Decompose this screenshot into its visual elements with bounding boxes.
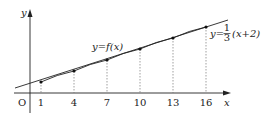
point-13 xyxy=(171,36,174,39)
tick-label-16: 16 xyxy=(200,97,213,108)
tick-label-4: 4 xyxy=(71,97,77,108)
line-label-suffix: (x+2) xyxy=(232,28,260,39)
point-16 xyxy=(204,25,207,28)
point-7 xyxy=(105,58,108,61)
x-axis-arrow-icon xyxy=(223,91,231,96)
tick-label-7: 7 xyxy=(104,97,110,108)
curve-label: y=f(x) xyxy=(91,41,123,52)
line-label: y= 1 3 (x+2) xyxy=(209,22,260,43)
line-label-denominator: 3 xyxy=(224,32,230,43)
origin-label: O xyxy=(18,97,26,108)
line-label-prefix: y= xyxy=(209,28,224,39)
function-diagram: y x O 1 4 7 10 13 16 y=f(x) y= 1 3 (x+2) xyxy=(0,0,267,116)
point-4 xyxy=(72,69,75,72)
point-1 xyxy=(39,80,42,83)
axes xyxy=(14,9,231,113)
tick-label-1: 1 xyxy=(38,97,44,108)
dashed-guides xyxy=(41,27,206,93)
x-axis-label: x xyxy=(224,97,230,108)
point-10 xyxy=(138,47,141,50)
y-axis-label: y xyxy=(20,7,27,18)
tick-label-13: 13 xyxy=(167,97,180,108)
y-axis-arrow-icon xyxy=(28,9,33,17)
tick-label-10: 10 xyxy=(134,97,147,108)
